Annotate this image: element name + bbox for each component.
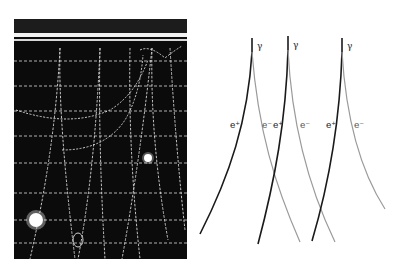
- photon-label: γ: [293, 40, 298, 50]
- photon-label: γ: [347, 41, 352, 51]
- electron-track: [288, 50, 335, 242]
- positron-label: e⁺: [273, 120, 283, 130]
- positron-track: [312, 52, 342, 241]
- pair-production-figure: γ e⁺ e⁻ γ e⁺ e⁻ γ e⁺ e⁻: [0, 0, 396, 274]
- positron-track: [200, 52, 252, 234]
- electron-label: e⁻: [300, 120, 310, 130]
- pair-3: γ e⁺ e⁻: [312, 38, 385, 241]
- bubble-chamber-photo: [14, 19, 187, 259]
- electron-track: [342, 52, 385, 209]
- electron-track: [252, 52, 300, 242]
- pair-2: γ e⁺ e⁻: [258, 36, 335, 244]
- positron-label: e⁺: [326, 120, 336, 130]
- electron-label: e⁻: [354, 120, 364, 130]
- positron-track: [258, 50, 288, 244]
- pair-1: γ e⁺ e⁻: [200, 38, 300, 242]
- photon-label: γ: [257, 41, 262, 51]
- electron-label: e⁻: [262, 120, 272, 130]
- positron-label: e⁺: [230, 120, 240, 130]
- pair-production-diagram: γ e⁺ e⁻ γ e⁺ e⁻ γ e⁺ e⁻: [200, 36, 385, 244]
